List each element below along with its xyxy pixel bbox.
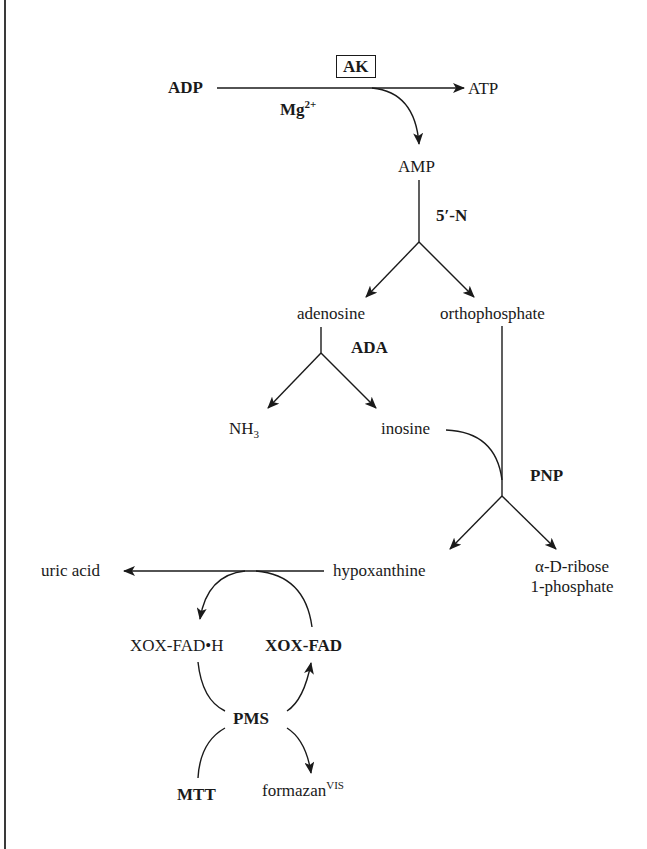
- arrow-to-amp: [372, 88, 419, 144]
- arrow-to-ribose: [502, 496, 556, 549]
- node-mtt: MTT: [177, 785, 216, 805]
- nh3-base: NH: [229, 419, 254, 438]
- node-nh3: NH3: [229, 419, 259, 439]
- arrow-to-adenosine: [366, 242, 419, 297]
- node-adenosine: adenosine: [297, 304, 365, 324]
- arc-mtt-to-pms: [198, 728, 225, 778]
- arc-from-xox-fad: [256, 571, 312, 627]
- arrow-to-orthophosphate: [419, 242, 474, 297]
- enzyme-5n: 5′-N: [436, 206, 467, 226]
- enzyme-ada: ADA: [351, 338, 388, 358]
- enzyme-ak-box: AK: [336, 55, 376, 78]
- node-ribose-phosphate: α-D-ribose 1-phosphate: [512, 557, 632, 597]
- arrow-to-nh3: [268, 353, 321, 408]
- cofactor-mg-charge: 2+: [305, 98, 317, 110]
- node-xox-fad-h: XOX-FAD•H: [130, 636, 223, 656]
- arrow-to-formazan: [287, 728, 311, 773]
- node-amp: AMP: [398, 157, 435, 177]
- formazan-base: formazan: [262, 781, 326, 800]
- node-hypoxanthine: hypoxanthine: [333, 561, 426, 581]
- ribose-line2: 1-phosphate: [512, 577, 632, 597]
- arrow-to-hypoxanthine: [450, 496, 502, 549]
- node-inosine: inosine: [381, 419, 430, 439]
- enzyme-pms: PMS: [233, 709, 269, 729]
- arc-xox-fad-h-to-pms: [198, 662, 225, 711]
- pathway-arrows: [0, 0, 647, 849]
- cofactor-mg: Mg2+: [280, 100, 316, 120]
- nh3-subscript: 3: [254, 428, 260, 440]
- node-formazan: formazanVIS: [262, 781, 344, 801]
- arrow-pms-to-xox-fad: [287, 663, 311, 711]
- node-orthophosphate: orthophosphate: [440, 304, 545, 324]
- enzyme-pnp: PNP: [530, 466, 563, 486]
- cofactor-mg-base: Mg: [280, 100, 305, 119]
- ribose-line1: α-D-ribose: [512, 557, 632, 577]
- arrow-to-xox-fad-h: [200, 571, 245, 619]
- arrow-to-inosine: [321, 353, 376, 408]
- node-atp: ATP: [468, 79, 498, 99]
- formazan-superscript: VIS: [326, 779, 344, 791]
- node-xox-fad: XOX-FAD: [265, 636, 342, 656]
- node-uric-acid: uric acid: [41, 561, 100, 581]
- node-adp: ADP: [168, 78, 203, 98]
